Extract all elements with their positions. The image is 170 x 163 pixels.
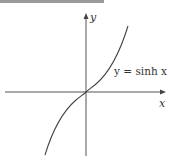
curve-label: y = sinh x <box>113 65 167 77</box>
y-axis-arrow-icon <box>84 13 89 19</box>
x-axis-arrow-icon <box>160 90 166 95</box>
sinh-graph: y x y = sinh x <box>0 0 170 163</box>
x-axis-label: x <box>159 97 166 110</box>
y-axis-label: y <box>89 11 97 24</box>
